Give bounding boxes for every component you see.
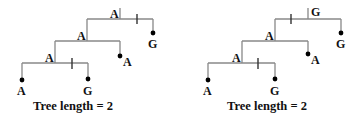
node3-state-label: A [232,52,241,64]
root-state-label: G [311,6,320,18]
tree-length-caption: Tree length = 2 [227,100,307,113]
leaf-label: G [83,85,92,97]
node2-state-label: A [77,30,86,42]
leaf-label: G [148,38,157,50]
leaf-label: A [203,85,212,97]
leaf-label: A [123,56,132,68]
root-state-label: A [110,8,119,20]
leaf-label: A [311,54,320,66]
tree-length-caption: Tree length = 2 [33,100,113,113]
tree-right: G A A A G A G Tree length = 2 [187,0,361,117]
leaf-label: A [17,85,26,97]
tree-left: A A A A G A G Tree length = 2 [0,0,180,117]
node3-state-label: A [45,52,54,64]
leaf-label: G [270,85,279,97]
leaf-label: G [336,38,345,50]
node2-state-label: A [265,30,274,42]
